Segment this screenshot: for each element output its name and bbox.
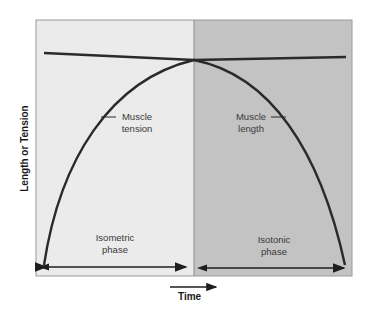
muscle-length-label: Muscle length	[230, 111, 272, 135]
y-axis-label: Length or Tension	[19, 99, 30, 199]
diagram-canvas	[0, 0, 370, 315]
muscle-tension-label: Muscle tension	[116, 111, 158, 135]
isometric-phase-label: Isometric phase	[88, 232, 142, 256]
x-axis-label: Time	[178, 291, 201, 302]
isotonic-phase-label: Isotonic phase	[247, 234, 301, 258]
